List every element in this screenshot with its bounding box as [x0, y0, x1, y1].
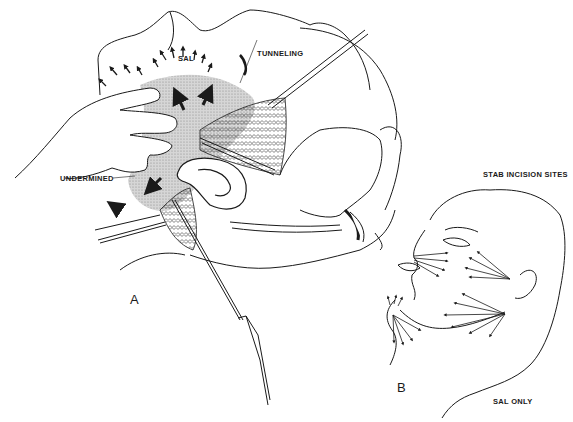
label-sal-only: SAL ONLY: [493, 397, 533, 406]
label-stab-incision-sites: STAB INCISION SITES: [483, 170, 568, 179]
label-sal: SAL: [178, 54, 194, 63]
label-undermined: UNDERMINED: [60, 174, 114, 183]
panel-b-letter: B: [397, 380, 406, 395]
label-tunneling: TUNNELING: [257, 49, 303, 58]
panel-b-drawing: [0, 0, 573, 422]
stab-incision-arrows: [388, 252, 510, 344]
panel-a-letter: A: [130, 292, 139, 307]
surgical-illustration: SAL TUNNELING UNDERMINED A STAB INCISION…: [0, 0, 573, 422]
